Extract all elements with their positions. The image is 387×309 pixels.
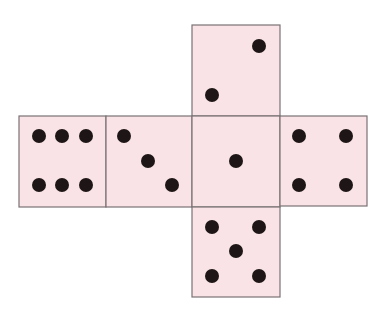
pip-dot [252, 39, 266, 53]
pip-dot [165, 178, 179, 192]
pip-dot [339, 129, 353, 143]
pip-dot [141, 154, 155, 168]
pip-dot [292, 178, 306, 192]
face-square [280, 116, 367, 206]
pip-dot [205, 269, 219, 283]
pip-dot [55, 129, 69, 143]
pip-dot [117, 129, 131, 143]
pip-dot [205, 220, 219, 234]
pip-dot [229, 244, 243, 258]
pip-dot [252, 269, 266, 283]
dice-net [0, 0, 387, 309]
face-center-1 [192, 116, 280, 207]
face-right-4 [280, 116, 367, 206]
pip-dot [79, 129, 93, 143]
face-top-2 [192, 25, 280, 116]
face-square [192, 25, 280, 116]
pip-dot [32, 178, 46, 192]
pip-dot [32, 129, 46, 143]
pip-dot [252, 220, 266, 234]
pip-dot [55, 178, 69, 192]
face-bottom-5 [192, 207, 280, 297]
pip-dot [79, 178, 93, 192]
pip-dot [292, 129, 306, 143]
face-left-outer-6 [19, 116, 106, 207]
pip-dot [339, 178, 353, 192]
pip-dot [229, 154, 243, 168]
face-left-inner-3 [106, 116, 192, 207]
pip-dot [205, 88, 219, 102]
